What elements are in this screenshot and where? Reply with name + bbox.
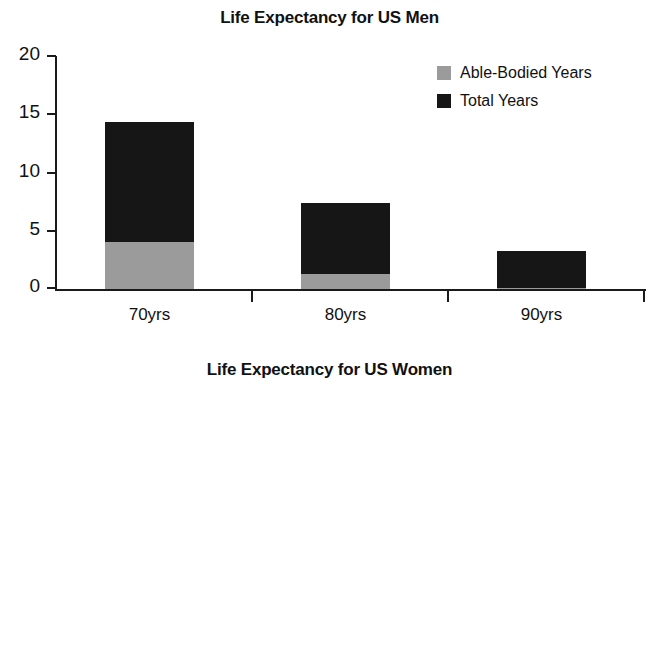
chart-panel-men: Life Expectancy for US Men 20 15 10 5 0 — [0, 0, 659, 329]
y-tick-label-5-men: 5 — [29, 219, 40, 239]
y-tick-label-0-men: 0 — [29, 276, 40, 296]
y-tick-5-men: 5 — [47, 230, 56, 232]
bar-90yrs-men[interactable] — [497, 251, 586, 289]
bar-80yrs-men[interactable] — [301, 203, 390, 289]
x-tick-2-men — [447, 290, 449, 302]
bar-70yrs-men[interactable] — [105, 122, 194, 289]
x-tick-end-men — [643, 290, 645, 302]
bar-segment-able-80yrs-men — [301, 274, 390, 289]
y-tick-15-men: 15 — [47, 113, 56, 115]
chart-panel-women: Life Expectancy for US Women 20 15 10 5 … — [0, 330, 659, 659]
bar-segment-able-90yrs-men — [497, 288, 586, 289]
y-tick-20-men: 20 — [47, 55, 56, 57]
x-axis-label-70yrs-men: 70yrs — [105, 305, 194, 324]
x-tick-1-men — [251, 290, 253, 302]
legend-item-able-bodied-men[interactable]: Able-Bodied Years — [437, 61, 592, 85]
x-axis-line-men — [55, 289, 646, 291]
chart-title-men: Life Expectancy for US Men — [0, 8, 659, 28]
legend-label-total-men: Total Years — [460, 89, 538, 113]
y-tick-10-men: 10 — [47, 172, 56, 174]
y-tick-label-10-men: 10 — [19, 161, 40, 181]
x-axis-label-90yrs-men: 90yrs — [497, 305, 586, 324]
y-tick-0-men: 0 — [47, 287, 56, 289]
y-tick-label-15-men: 15 — [19, 102, 40, 122]
legend-swatch-able-bodied-icon — [437, 66, 451, 80]
y-tick-label-20-men: 20 — [19, 44, 40, 64]
bar-segment-able-70yrs-men — [105, 242, 194, 289]
legend-label-able-bodied-men: Able-Bodied Years — [460, 61, 592, 85]
bar-segment-total-90yrs-men — [497, 251, 586, 289]
legend-item-total-men[interactable]: Total Years — [437, 89, 592, 113]
legend-men: Able-Bodied Years Total Years — [437, 61, 592, 117]
chart-title-women: Life Expectancy for US Women — [0, 360, 659, 380]
x-axis-label-80yrs-men: 80yrs — [301, 305, 390, 324]
figure-container: Life Expectancy for US Men 20 15 10 5 0 — [0, 0, 659, 659]
legend-swatch-total-icon — [437, 94, 451, 108]
